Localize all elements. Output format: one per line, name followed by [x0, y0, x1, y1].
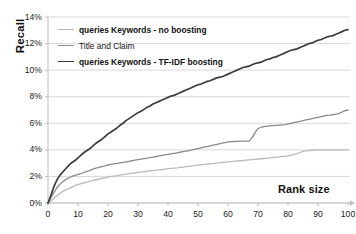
- legend-label-tfidf-boosting: queries Keywords - TF-IDF boosting: [79, 57, 223, 67]
- x-tick-label: 0: [36, 209, 60, 219]
- series-line-1: [48, 110, 348, 203]
- legend-item-no-boosting: queries Keywords - no boosting: [58, 23, 253, 36]
- y-tick-label: 10%: [12, 65, 42, 75]
- y-tick-label: 14%: [12, 12, 42, 22]
- y-tick-label: 8%: [12, 91, 42, 101]
- x-tick-label: 60: [216, 209, 240, 219]
- legend-swatch-tfidf-boosting: [58, 61, 74, 62]
- y-tick-label: 6%: [12, 118, 42, 128]
- x-tick-label: 50: [186, 209, 210, 219]
- x-tick-label: 20: [96, 209, 120, 219]
- y-tick-label: 0%: [12, 198, 42, 208]
- legend-item-tfidf-boosting: queries Keywords - TF-IDF boosting: [58, 55, 253, 68]
- x-tick-label: 10: [66, 209, 90, 219]
- legend-label-title-and-claim: Title and Claim: [79, 41, 135, 51]
- x-tick-label: 100: [336, 209, 356, 219]
- x-axis-arrow-icon: [350, 200, 355, 206]
- legend-label-no-boosting: queries Keywords - no boosting: [79, 25, 207, 35]
- y-tick-label: 4%: [12, 144, 42, 154]
- x-tick-label: 30: [126, 209, 150, 219]
- chart-legend: queries Keywords - no boosting Title and…: [58, 23, 253, 71]
- legend-swatch-no-boosting: [58, 29, 74, 30]
- y-tick-label: 2%: [12, 171, 42, 181]
- legend-swatch-title-and-claim: [58, 45, 74, 46]
- x-tick-label: 90: [306, 209, 330, 219]
- x-tick-label: 80: [276, 209, 300, 219]
- x-tick-label: 70: [246, 209, 270, 219]
- legend-item-title-and-claim: Title and Claim: [58, 39, 253, 52]
- recall-vs-rank-size-chart: Recall Rank size 0%2%4%6%8%10%12%14% 010…: [0, 0, 356, 234]
- x-tick-label: 40: [156, 209, 180, 219]
- y-tick-label: 12%: [12, 38, 42, 48]
